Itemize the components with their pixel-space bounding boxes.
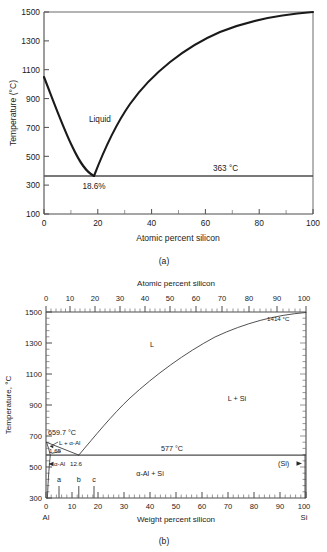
- figure-a-y-tick-labels: 100 300 500 700 900 1100 1300 1500: [21, 7, 40, 219]
- figure-a-liquidus-al-rich: [44, 77, 94, 176]
- figure-a-svg: 100 300 500 700 900 1100 1300 1500 0 20: [0, 0, 327, 276]
- figure-b-liquidus-si-rich: [79, 313, 306, 456]
- figure-b-ytick-label: 900: [29, 401, 42, 410]
- figure-b-top-tick-label: 20: [91, 294, 99, 303]
- figure-b-phase-diagram: Atomic percent silicon: [0, 276, 327, 552]
- figure-a-ytick-label: 1500: [21, 7, 40, 17]
- figure-b-xtick-label: 100: [298, 502, 311, 511]
- figure-b-liquid-si-label: L + Si: [228, 394, 247, 403]
- figure-b-xtick-label: 50: [172, 502, 180, 511]
- figure-a-ytick-label: 1300: [21, 36, 40, 46]
- figure-b-svg: Atomic percent silicon: [0, 276, 327, 552]
- figure-a-ytick-label: 500: [26, 152, 40, 162]
- figure-a-xtick-label: 80: [255, 218, 265, 228]
- figure-b-ytick-label: 500: [29, 463, 42, 472]
- figure-b-xtick-label: 70: [224, 502, 232, 511]
- figure-b-si-phase-label: (Si): [278, 459, 289, 468]
- figure-b-bottom-axis-title: Weight percent silicon: [137, 515, 215, 524]
- figure-b-ytick-label: 1100: [26, 370, 42, 379]
- figure-a-liquid-label: Liquid: [89, 115, 111, 124]
- figure-b-si-melting-label: 1414 °C: [267, 315, 290, 322]
- figure-b-top-tick-label: 100: [298, 294, 311, 303]
- figure-a-liquidus-si-rich: [94, 12, 313, 176]
- arrow-head-icon: [297, 461, 303, 466]
- figure-b-top-tick-label: 60: [192, 294, 200, 303]
- figure-b-bottom-tick-labels: 0 10 20 30 40 50 60 70 80 90 100: [44, 502, 310, 511]
- figure-a-phase-diagram: 100 300 500 700 900 1100 1300 1500 0 20: [0, 0, 327, 276]
- figure-b-top-ticks: [46, 306, 306, 312]
- figure-b-marker-label-c: c: [92, 475, 96, 484]
- figure-b-endpoint-al: Al: [43, 513, 50, 522]
- figure-a-x-axis-title: Atomic percent silicon: [136, 233, 220, 243]
- figure-a-ytick-label: 900: [26, 94, 40, 104]
- figure-a-x-tick-labels: 0 20 40 60 80 100: [42, 218, 321, 228]
- figure-b-endpoint-si: Si: [301, 513, 308, 522]
- figure-a-ytick-label: 300: [26, 180, 40, 190]
- figure-b-alpha-si-label: α-Al + Si: [136, 469, 164, 478]
- figure-a-xtick-label: 40: [147, 218, 157, 228]
- figure-a-xtick-label: 60: [201, 218, 211, 228]
- figure-b-y-tick-labels: 300 500 700 900 1100 1300 1500: [25, 308, 42, 503]
- figure-b-solubility-annotation: 1.65: [49, 447, 62, 454]
- figure-b-top-axis-title: Atomic percent silicon: [137, 279, 215, 288]
- figure-a-eutectic-composition-label: 18.6%: [82, 182, 105, 191]
- figure-b-top-tick-label: 70: [218, 294, 226, 303]
- figure-b-liquid-label: L: [150, 340, 154, 349]
- figure-b-alpha-al-label: α-Al: [54, 460, 65, 467]
- figure-b-top-tick-label: 40: [141, 294, 149, 303]
- figure-b-xtick-label: 10: [68, 502, 76, 511]
- figure-b-top-tick-label: 90: [273, 294, 281, 303]
- figure-a-xtick-label: 0: [42, 218, 47, 228]
- figure-b-xtick-label: 20: [94, 502, 102, 511]
- figure-a-eutectic-temperature-label: 363 °C: [213, 164, 238, 173]
- figure-b-eutectic-composition-label: 12.6: [70, 460, 83, 467]
- figure-b-alpha-al-annotation: α-Al: [49, 460, 66, 467]
- figure-b-ytick-label: 1300: [25, 339, 42, 348]
- figure-b-caption: (b): [159, 536, 170, 546]
- figure-b-ytick-label: 1500: [25, 308, 42, 317]
- figure-b-xtick-label: 40: [146, 502, 154, 511]
- figure-a-ytick-label: 1100: [22, 65, 40, 75]
- figure-b-solubility-label: 1.65: [49, 447, 62, 454]
- figure-b-bottom-ticks: [46, 492, 306, 498]
- figure-b-eutectic-temperature-label: 577 °C: [161, 444, 183, 453]
- figure-b-y-axis-title: Temperature, °C: [4, 376, 13, 435]
- figure-b-xtick-label: 0: [44, 502, 48, 511]
- figure-b-composition-markers: a b c: [57, 475, 96, 498]
- figure-b-al-melting-label: 659.7 °C: [48, 428, 76, 437]
- figure-b-axes: [46, 312, 306, 498]
- figure-b-marker-label-b: b: [77, 475, 81, 484]
- figure-b-top-tick-label: 10: [66, 294, 74, 303]
- figure-b-xtick-label: 90: [276, 502, 284, 511]
- figure-a-x-ticks: [44, 209, 313, 214]
- figure-b-liquid-alpha-label: L + α-Al: [59, 439, 80, 446]
- figure-b-top-tick-label: 50: [166, 294, 174, 303]
- figure-a-ytick-label: 700: [26, 123, 40, 133]
- figure-b-marker-label-a: a: [57, 475, 61, 484]
- figure-b-xtick-label: 80: [250, 502, 258, 511]
- figure-a-xtick-label: 20: [93, 218, 103, 228]
- figure-b-top-tick-label: 80: [245, 294, 253, 303]
- figure-a-ytick-label: 100: [26, 209, 40, 219]
- figure-b-xtick-label: 60: [198, 502, 206, 511]
- figure-b-ytick-label: 300: [29, 494, 42, 503]
- figure-a-caption: (a): [159, 256, 170, 266]
- figure-b-ytick-label: 700: [29, 432, 42, 441]
- figure-a-xtick-label: 100: [306, 218, 320, 228]
- figure-a-y-axis-title: Temperature (°C): [8, 80, 18, 146]
- figure-b-xtick-label: 30: [120, 502, 128, 511]
- figure-b-si-phase-annotation: (Si): [278, 459, 302, 468]
- figure-b-top-tick-labels: 0 10 20 30 40 50 60 70 80 90 100: [44, 294, 310, 303]
- figure-b-top-tick-label: 0: [44, 294, 48, 303]
- figure-a-y-ticks: [44, 12, 49, 214]
- figure-b-top-tick-label: 30: [116, 294, 124, 303]
